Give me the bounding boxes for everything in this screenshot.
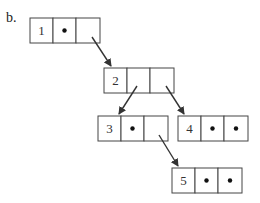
arrow-2-to-4	[166, 86, 184, 114]
node-2-right-cell	[150, 68, 174, 93]
node-2-left-cell	[127, 68, 150, 93]
node-1: 1	[30, 18, 100, 43]
node-5: 5	[172, 168, 242, 193]
node-3-value: 3	[106, 121, 113, 136]
node-1-right-cell	[76, 18, 100, 43]
node-3: 3	[98, 116, 168, 141]
null-dot-icon	[204, 178, 208, 182]
node-4-value: 4	[186, 121, 193, 136]
node-2-value: 2	[112, 73, 119, 88]
null-dot-icon	[62, 28, 66, 32]
node-5-value: 5	[180, 173, 187, 188]
node-3-right-cell	[144, 116, 168, 141]
node-1-value: 1	[38, 23, 45, 38]
linked-tree-diagram: 1 2 3 4 5	[0, 0, 260, 203]
null-dot-icon	[234, 126, 238, 130]
arrow-1-to-2	[92, 37, 111, 66]
node-2: 2	[104, 68, 174, 93]
null-dot-icon	[130, 126, 134, 130]
null-dot-icon	[210, 126, 214, 130]
null-dot-icon	[228, 178, 232, 182]
node-4: 4	[178, 116, 248, 141]
